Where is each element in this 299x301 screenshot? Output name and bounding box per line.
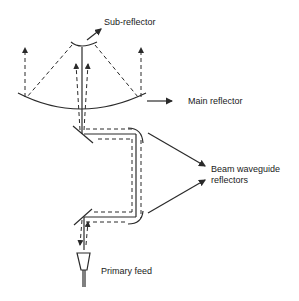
- beam-waveguide-label-line1: Beam waveguide: [211, 164, 280, 175]
- sub-reflector-pointer-arrow: [87, 29, 101, 40]
- feed-ray-left: [80, 220, 82, 245]
- primary-feed-horn: [77, 253, 90, 270]
- sub-reflector-dish: [71, 42, 97, 46]
- main-reflector-label: Main reflector: [188, 96, 243, 107]
- sub-reflector-label: Sub-reflector: [104, 17, 156, 28]
- ray-center-left: [76, 64, 80, 130]
- beam-waveguide-pointer-upper: [148, 133, 205, 166]
- primary-feed-label: Primary feed: [101, 266, 152, 277]
- ray-right: [95, 45, 138, 97]
- beam-waveguide-label-line2: reflectors: [211, 175, 248, 186]
- beam-waveguide-pointer-lower: [148, 180, 205, 213]
- beam-waveguide-diagram: [0, 0, 299, 301]
- feed-ray-right: [86, 222, 88, 245]
- ray-left: [27, 45, 72, 97]
- ray-center-right: [84, 64, 88, 130]
